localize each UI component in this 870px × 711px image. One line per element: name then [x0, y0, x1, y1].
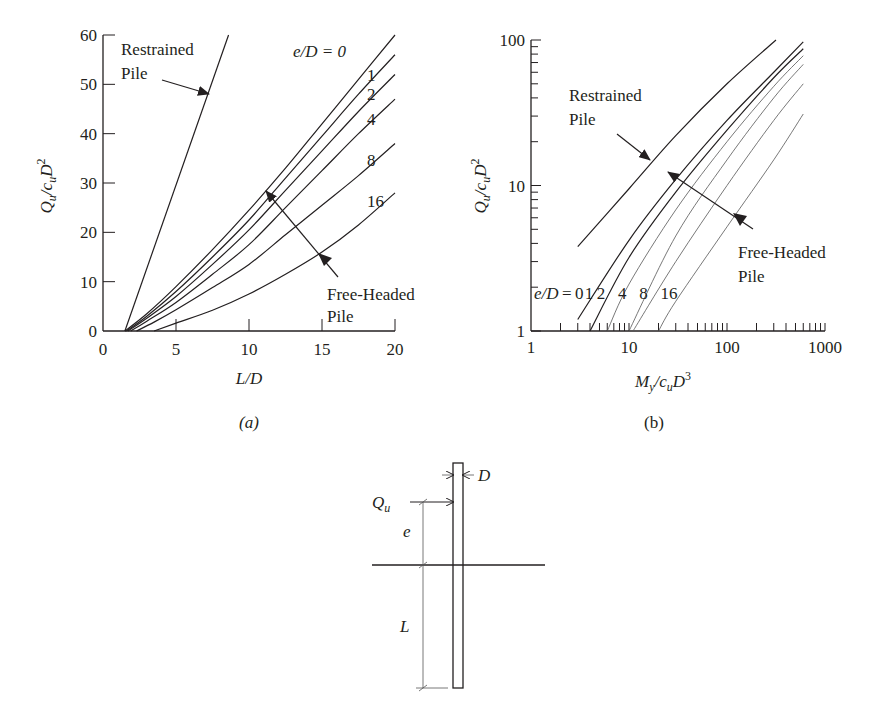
chart-a-free-headed-label: Free-Headed: [327, 285, 415, 304]
chart-a-curve-label-2: 2: [367, 85, 376, 104]
chart-a-x-axis-label: L/D: [235, 369, 263, 388]
x-tick-label: 5: [172, 340, 181, 359]
y-tick-label: 50: [80, 75, 97, 94]
y-tick-label: 10: [80, 273, 97, 292]
chart-a-curve-label-16: 16: [367, 192, 384, 211]
chart-a: 010203040506005101520 Qu/cuD2 L/D (a) Re…: [34, 26, 415, 432]
chart-a-curve-label-4: 4: [367, 110, 376, 129]
pile-shaft: [453, 463, 463, 688]
chart-a-curve-label-8: 8: [367, 151, 376, 170]
y-tick-label: 60: [80, 26, 97, 45]
y-tick-label: 40: [80, 125, 97, 144]
x-tick-label: 100: [714, 338, 740, 357]
curve-e-d-0: [578, 42, 804, 320]
curve-e-d-16: [659, 114, 804, 331]
y-tick-label: 0: [89, 322, 98, 341]
load-label: Qu: [372, 493, 390, 515]
chart-a-restrained-label-2: Pile: [121, 64, 147, 83]
chart-b-restrained-label: Restrained: [569, 86, 642, 105]
y-tick-label: 100: [500, 31, 526, 50]
chart-b: 1101001101001000 Qu/cuD2 My/cuD3 (b) Res…: [468, 31, 842, 432]
y-tick-label: 20: [80, 223, 97, 242]
diameter-label: D: [477, 466, 491, 485]
chart-a-curve-label-1: 1: [367, 66, 376, 85]
chart-a-free-headed-label-2: Pile: [327, 307, 353, 326]
chart-a-free-headed-arrowhead: [318, 253, 332, 266]
chart-a-y-axis-label: Qu/cuD2: [34, 159, 59, 214]
y-tick-label: 10: [508, 177, 525, 196]
chart-a-legend-header: e/D = 0: [293, 42, 347, 61]
chart-b-free-headed-label-2: Pile: [738, 267, 764, 286]
curve-restrained-pile: [578, 40, 776, 247]
pile-diagram: D Qu e L: [372, 463, 545, 691]
figure: 010203040506005101520 Qu/cuD2 L/D (a) Re…: [0, 0, 870, 711]
chart-b-axes: 1101001101001000: [500, 31, 843, 357]
eccentricity-label: e: [403, 522, 411, 541]
x-tick-label: 1000: [808, 338, 842, 357]
y-tick-label: 30: [80, 174, 97, 193]
chart-b-caption: (b): [644, 413, 664, 432]
chart-b-restrained-arrow: [617, 134, 650, 160]
x-tick-label: 10: [241, 340, 258, 359]
x-tick-label: 20: [387, 340, 404, 359]
chart-b-free-headed-label: Free-Headed: [738, 243, 826, 262]
chart-a-restrained-arrow: [162, 80, 209, 94]
chart-b-x-axis-label: My/cuD3: [634, 369, 691, 394]
chart-a-restrained-label: Restrained: [121, 40, 194, 59]
x-tick-label: 15: [314, 340, 331, 359]
curve-e-d-16: [154, 193, 395, 331]
chart-b-y-axis-label: Qu/cuD2: [468, 159, 493, 214]
chart-a-caption: (a): [239, 413, 259, 432]
chart-b-restrained-label-2: Pile: [569, 110, 595, 129]
x-tick-label: 1: [527, 338, 536, 357]
chart-b-legend: e/D = 0 1 2 4 8 16: [534, 284, 678, 303]
x-tick-label: 10: [621, 338, 638, 357]
y-tick-label: 1: [517, 322, 526, 341]
length-label: L: [399, 617, 409, 636]
x-tick-label: 0: [99, 340, 108, 359]
